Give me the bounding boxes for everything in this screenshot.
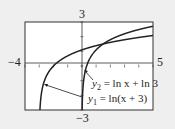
legend-y1: y1 = ln(x + 3) [88, 93, 147, 107]
legend-y2: y2 = ln x + ln 3 [92, 78, 158, 92]
graph-plot [0, 0, 175, 129]
x-min-label: −4 [8, 56, 21, 68]
y-max-label: 3 [79, 8, 85, 20]
y-min-label: −3 [76, 112, 89, 124]
x-max-label: 5 [157, 56, 163, 68]
